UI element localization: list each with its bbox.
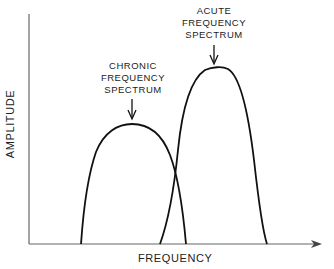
chronic-label-line: FREQUENCY [96, 72, 170, 84]
spectrum-diagram [0, 0, 334, 269]
chronic-label: CHRONIC FREQUENCY SPECTRUM [96, 60, 170, 96]
acute-label-line: FREQUENCY [176, 17, 252, 29]
chronic-label-line: SPECTRUM [96, 84, 170, 96]
x-axis-label: FREQUENCY [138, 252, 212, 264]
acute-label-line: ACUTE [176, 5, 252, 17]
chronic-spectrum-curve [81, 124, 186, 244]
chronic-label-line: CHRONIC [96, 60, 170, 72]
y-axis-label: AMPLITUDE [4, 88, 16, 160]
acute-spectrum-curve [160, 67, 267, 244]
acute-label: ACUTE FREQUENCY SPECTRUM [176, 5, 252, 41]
acute-label-line: SPECTRUM [176, 29, 252, 41]
